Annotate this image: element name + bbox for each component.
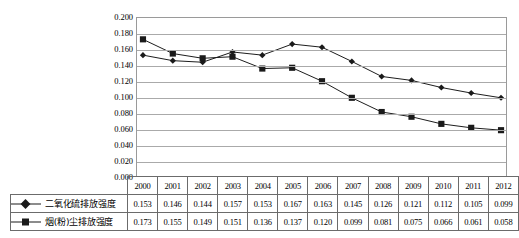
data-cell: 0.136: [248, 213, 278, 231]
data-point-square: [438, 121, 444, 127]
table-row: 二氧化硫排放强度0.1530.1460.1440.1570.1530.1670.…: [11, 195, 519, 213]
y-axis-tick-label: 0.200: [114, 13, 133, 22]
plot-series-svg: [137, 18, 506, 176]
gridline: [137, 130, 506, 131]
gridline: [137, 82, 506, 83]
series-line: [143, 39, 501, 130]
data-point-diamond: [140, 52, 146, 58]
year-header-cell: 2000: [128, 177, 158, 195]
data-cell: 0.167: [278, 195, 308, 213]
legend-cell-1: 二氧化硫排放强度: [11, 195, 128, 213]
data-cell: 0.144: [188, 195, 218, 213]
year-header-cell: 2009: [398, 177, 428, 195]
data-cell: 0.173: [128, 213, 158, 231]
data-cell: 0.081: [368, 213, 398, 231]
data-cell: 0.153: [248, 195, 278, 213]
data-point-diamond: [349, 58, 355, 64]
data-point-square: [140, 36, 146, 42]
data-cell: 0.151: [218, 213, 248, 231]
data-point-square: [170, 50, 176, 56]
legend-label: 烟(粉)尘排放强度: [45, 215, 113, 228]
table-row: 烟(粉)尘排放强度0.1730.1550.1490.1510.1360.1370…: [11, 213, 519, 231]
legend-label: 二氧化硫排放强度: [45, 197, 115, 210]
year-header-cell: 2005: [278, 177, 308, 195]
data-cell: 0.061: [458, 213, 488, 231]
data-cell: 0.112: [428, 195, 458, 213]
data-point-square: [200, 55, 206, 61]
data-point-diamond: [379, 73, 385, 79]
gridline: [137, 146, 506, 147]
data-cell: 0.075: [398, 213, 428, 231]
data-point-diamond: [259, 52, 265, 58]
year-header-cell: 2004: [248, 177, 278, 195]
y-axis-tick-label: 0.100: [114, 93, 133, 102]
data-point-square: [229, 54, 235, 60]
data-point-diamond: [170, 58, 176, 64]
y-axis: 0.0000.0200.0400.0600.0800.1000.1200.140…: [96, 17, 136, 177]
data-cell: 0.121: [398, 195, 428, 213]
legend-diamond-marker-icon: [11, 198, 41, 210]
y-axis-tick-label: 0.120: [114, 77, 133, 86]
data-cell: 0.145: [338, 195, 368, 213]
data-point-diamond: [289, 41, 295, 47]
y-axis-tick-label: 0.040: [114, 141, 133, 150]
legend-cell-2: 烟(粉)尘排放强度: [11, 213, 128, 231]
line-chart: 0.0000.0200.0400.0600.0800.1000.1200.140…: [0, 0, 519, 182]
data-cell: 0.163: [308, 195, 338, 213]
year-header-cell: 2010: [428, 177, 458, 195]
data-cell: 0.137: [278, 213, 308, 231]
gridline: [137, 162, 506, 163]
data-point-diamond: [468, 90, 474, 96]
chart-figure: 0.0000.0200.0400.0600.0800.1000.1200.140…: [0, 0, 519, 238]
data-cell: 0.146: [158, 195, 188, 213]
data-cell: 0.105: [458, 195, 488, 213]
data-cell: 0.157: [218, 195, 248, 213]
year-header-cell: 2002: [188, 177, 218, 195]
y-axis-tick-label: 0.160: [114, 45, 133, 54]
data-cell: 0.153: [128, 195, 158, 213]
y-axis-tick-label: 0.080: [114, 109, 133, 118]
data-cell: 0.149: [188, 213, 218, 231]
plot-area: [136, 17, 507, 177]
y-axis-tick-label: 0.180: [114, 29, 133, 38]
gridline: [137, 98, 506, 99]
year-header-cell: 2008: [368, 177, 398, 195]
year-header-cell: 2011: [458, 177, 488, 195]
data-cell: 0.155: [158, 213, 188, 231]
y-axis-tick-label: 0.020: [114, 157, 133, 166]
table-corner-cell: [11, 177, 128, 195]
year-header-cell: 2001: [158, 177, 188, 195]
data-cell: 0.066: [428, 213, 458, 231]
data-cell: 0.099: [488, 195, 518, 213]
year-header-cell: 2007: [338, 177, 368, 195]
y-axis-tick-label: 0.060: [114, 125, 133, 134]
year-header-cell: 2003: [218, 177, 248, 195]
year-header-cell: 2012: [488, 177, 518, 195]
data-cell: 0.126: [368, 195, 398, 213]
data-cell: 0.099: [338, 213, 368, 231]
data-point-diamond: [438, 84, 444, 90]
data-cell: 0.120: [308, 213, 338, 231]
series-line: [143, 44, 501, 98]
gridline: [137, 34, 506, 35]
year-header-cell: 2006: [308, 177, 338, 195]
gridline: [137, 50, 506, 51]
y-axis-tick-label: 0.140: [114, 61, 133, 70]
gridline: [137, 66, 506, 67]
table-header-row: 2000200120022003200420052006200720082009…: [11, 177, 519, 195]
gridline: [137, 114, 506, 115]
data-cell: 0.058: [488, 213, 518, 231]
legend-square-marker-icon: [11, 216, 41, 228]
data-table: 2000200120022003200420052006200720082009…: [10, 176, 519, 231]
